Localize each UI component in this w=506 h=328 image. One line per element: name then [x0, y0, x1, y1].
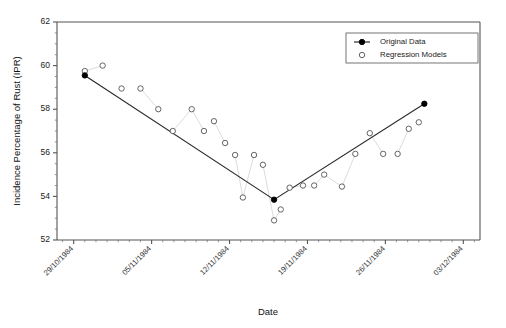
connector-segment: [398, 129, 409, 154]
regression-point: [395, 151, 400, 156]
regression-point: [260, 162, 265, 167]
connector-segment: [324, 175, 342, 187]
regression-connector-lines: [85, 66, 409, 221]
regression-point: [321, 172, 326, 177]
connector-segment: [192, 109, 204, 131]
regression-point: [201, 128, 206, 133]
regression-point: [406, 126, 411, 131]
regression-point: [156, 107, 161, 112]
original-data-point: [271, 197, 276, 202]
regression-models-points: [82, 63, 421, 223]
x-tick-label: 03/12/1984: [431, 244, 464, 277]
legend-entry-label: Regression Models: [380, 50, 447, 59]
regression-point: [278, 207, 283, 212]
regression-point: [232, 152, 237, 157]
y-tick-label: 54: [41, 191, 51, 201]
regression-point: [287, 185, 292, 190]
connector-segment: [140, 88, 158, 109]
connector-segment: [243, 155, 254, 198]
connector-segment: [263, 165, 274, 221]
regression-point: [211, 118, 216, 123]
connector-segment: [173, 109, 192, 131]
regression-point: [170, 128, 175, 133]
y-axis: 525456586062: [41, 16, 57, 244]
legend-marker-open-circle: [359, 52, 364, 57]
y-tick-label: 56: [41, 147, 51, 157]
regression-point: [367, 130, 372, 135]
connector-segment: [342, 154, 355, 187]
chart-figure: 525456586062 29/10/198405/11/198412/11/1…: [0, 0, 506, 328]
x-tick-label: 05/11/1984: [120, 244, 153, 277]
regression-point: [311, 183, 316, 188]
y-tick-label: 58: [41, 103, 51, 113]
original-data-point: [82, 73, 87, 78]
regression-point: [416, 120, 421, 125]
regression-point: [300, 183, 305, 188]
rust-incidence-scatter-chart: 525456586062 29/10/198405/11/198412/11/1…: [0, 0, 506, 328]
regression-point: [100, 63, 105, 68]
regression-point: [251, 152, 256, 157]
connector-segment: [214, 121, 225, 143]
original-data-polyline: [85, 75, 425, 199]
x-tick-label: 12/11/1984: [198, 244, 231, 277]
original-data-point: [422, 101, 427, 106]
chart-legend: Original DataRegression Models: [346, 33, 478, 63]
regression-point: [240, 195, 245, 200]
y-axis-title: Incidence Percentage of Rust (IPR): [11, 56, 22, 205]
legend-marker-filled-circle: [359, 39, 364, 44]
connector-segment: [370, 133, 383, 154]
regression-point: [353, 151, 358, 156]
original-data-line: [85, 75, 425, 199]
regression-point: [138, 86, 143, 91]
regression-point: [119, 86, 124, 91]
y-tick-label: 62: [41, 16, 51, 26]
regression-point: [339, 184, 344, 189]
regression-point: [189, 107, 194, 112]
x-tick-label: 29/10/1984: [42, 244, 75, 277]
regression-point: [222, 140, 227, 145]
y-tick-label: 52: [41, 234, 51, 244]
regression-point: [271, 218, 276, 223]
regression-point: [380, 151, 385, 156]
original-data-points: [82, 73, 427, 203]
y-tick-label: 60: [41, 60, 51, 70]
x-axis-title: Date: [258, 306, 278, 317]
legend-entry-label: Original Data: [380, 37, 426, 46]
x-tick-label: 26/11/1984: [354, 244, 387, 277]
x-tick-label: 19/11/1984: [276, 244, 309, 277]
